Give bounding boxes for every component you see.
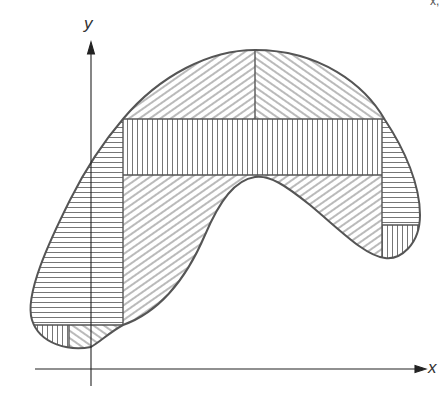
y-axis-arrow-icon [88, 42, 95, 54]
x-axis-label: x [428, 358, 437, 378]
corner-text-fragment: x, [430, 0, 439, 8]
top-right-cap [255, 0, 446, 119]
lower-middle [123, 175, 382, 350]
central-band [123, 119, 382, 175]
right-upper [382, 119, 446, 225]
left-strip [0, 119, 123, 325]
right-lower [382, 225, 446, 285]
y-axis-label: y [84, 14, 93, 34]
bottom-right-small [69, 325, 129, 365]
top-left-cap [0, 0, 255, 119]
x-axis-arrow-icon [415, 366, 426, 373]
region-diagram [0, 0, 446, 402]
